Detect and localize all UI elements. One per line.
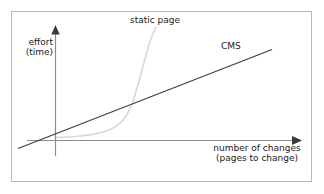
y-axis-label-line1: effort bbox=[0, 37, 53, 47]
y-axis-label: effort (time) bbox=[0, 37, 53, 57]
x-axis-label-line2: (pages to change) bbox=[196, 153, 318, 163]
diagram-screenshot: effort (time) number of changes (pages t… bbox=[0, 0, 324, 194]
series-label-static-page: static page bbox=[130, 15, 180, 25]
x-axis-label: number of changes (pages to change) bbox=[196, 143, 318, 163]
effort-vs-changes-chart bbox=[0, 0, 324, 194]
y-axis-label-line2: (time) bbox=[0, 47, 53, 57]
series-label-cms: CMS bbox=[221, 41, 241, 51]
y-axis-arrowhead-icon bbox=[51, 25, 59, 35]
series-curve-static-page bbox=[55, 28, 156, 138]
x-axis-label-line1: number of changes bbox=[196, 143, 318, 153]
